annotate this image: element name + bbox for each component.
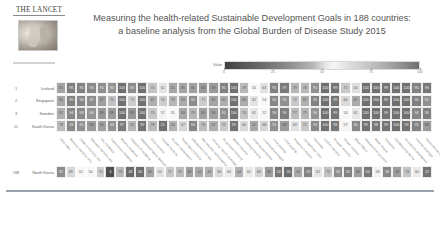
heatmap-cell[interactable]: 99 [381,95,391,107]
heatmap-cell[interactable]: 87 [97,95,107,107]
heatmap-cell[interactable]: 95 [269,82,279,94]
heatmap-cell[interactable]: 74 [147,82,157,94]
heatmap-cell[interactable]: 41 [293,166,303,178]
heatmap-cell[interactable]: 52 [76,166,86,178]
heatmap-cell[interactable]: 70 [96,166,106,178]
heatmap-cell[interactable]: 91 [310,82,320,94]
heatmap-cell[interactable]: 99 [137,120,147,132]
heatmap-cell[interactable]: 95 [219,82,229,94]
heatmap-cell[interactable]: 78 [300,82,310,94]
heatmap-cell[interactable]: 94 [411,107,421,119]
heatmap-cell[interactable]: 90 [86,107,96,119]
heatmap-cell[interactable]: 95 [411,120,421,132]
heatmap-cell[interactable]: 100 [229,82,239,94]
heatmap-cell[interactable]: 99 [330,107,340,119]
heatmap-cell[interactable]: 85 [178,82,188,94]
heatmap-cell[interactable]: 83 [178,95,188,107]
heatmap-cell[interactable]: 100 [320,120,330,132]
heatmap-cell[interactable]: 96 [411,95,421,107]
heatmap-cell[interactable]: 62 [249,95,259,107]
heatmap-cell[interactable]: 74 [239,107,249,119]
heatmap-cell[interactable]: 99 [229,120,239,132]
heatmap-cell[interactable]: 41 [249,120,259,132]
heatmap-cell[interactable]: 98 [330,120,340,132]
heatmap-cell[interactable]: 61 [351,107,361,119]
heatmap-cell[interactable]: 94 [269,95,279,107]
heatmap-cell[interactable]: 88 [208,82,218,94]
heatmap-cell[interactable]: 49 [66,166,76,178]
heatmap-cell[interactable]: 100 [117,107,127,119]
heatmap-cell[interactable]: 85 [208,95,218,107]
heatmap-cell[interactable]: 96 [422,107,432,119]
heatmap-cell[interactable]: 20 [283,166,293,178]
heatmap-cell[interactable]: 92 [127,82,137,94]
heatmap-cell[interactable]: 74 [402,166,412,178]
heatmap-cell[interactable]: 99 [381,107,391,119]
heatmap-cell[interactable]: 100 [320,95,330,107]
heatmap-cell[interactable]: 68 [259,120,269,132]
heatmap-cell[interactable]: 91 [279,95,289,107]
heatmap-cell[interactable]: 34 [107,120,117,132]
heatmap-cell[interactable]: 94 [188,120,198,132]
heatmap-cell[interactable]: 63 [259,82,269,94]
heatmap-cell[interactable]: 100 [401,107,411,119]
heatmap-cell[interactable]: 62 [158,82,168,94]
heatmap-cell[interactable]: 71 [127,95,137,107]
heatmap-cell[interactable]: 86 [185,166,195,178]
heatmap-cell[interactable]: 96 [279,107,289,119]
heatmap-cell[interactable]: 89 [127,107,137,119]
heatmap-cell[interactable]: 63 [290,120,300,132]
heatmap-cell[interactable]: 99 [330,95,340,107]
heatmap-cell[interactable]: 84 [178,107,188,119]
heatmap-cell[interactable]: 75 [107,95,117,107]
heatmap-cell[interactable]: 100 [320,82,330,94]
heatmap-cell[interactable]: 60 [224,166,234,178]
heatmap-cell[interactable]: 55 [168,107,178,119]
heatmap-cell[interactable]: 60 [412,166,422,178]
heatmap-cell[interactable]: 40 [145,166,155,178]
heatmap-cell[interactable]: 71 [198,95,208,107]
heatmap-cell[interactable]: 89 [97,107,107,119]
heatmap-cell[interactable]: 99 [381,82,391,94]
heatmap-cell[interactable]: 72 [290,95,300,107]
heatmap-cell[interactable]: 78 [239,82,249,94]
heatmap-cell[interactable]: 90 [310,107,320,119]
heatmap-cell[interactable]: 91 [422,95,432,107]
heatmap-cell[interactable]: 72 [300,120,310,132]
heatmap-cell[interactable]: 56 [86,166,96,178]
heatmap-cell[interactable]: 76 [198,120,208,132]
heatmap-cell[interactable]: 97 [279,82,289,94]
heatmap-cell[interactable]: 41 [168,82,178,94]
heatmap-cell[interactable]: 72 [340,82,350,94]
heatmap-cell[interactable]: 83 [239,95,249,107]
heatmap-cell[interactable]: 38 [392,166,402,178]
heatmap-cell[interactable]: 100 [371,107,381,119]
heatmap-cell[interactable]: 97 [117,120,127,132]
heatmap-cell[interactable]: 88 [279,120,289,132]
heatmap-cell[interactable]: 79 [290,82,300,94]
heatmap-cell[interactable]: 100 [117,95,127,107]
heatmap-cell[interactable]: 67 [178,120,188,132]
heatmap-cell[interactable]: 82 [56,107,66,119]
heatmap-cell[interactable]: 91 [269,120,279,132]
heatmap-cell[interactable]: 30 [382,166,392,178]
heatmap-cell[interactable]: 44 [204,166,214,178]
heatmap-cell[interactable]: 77 [290,107,300,119]
heatmap-cell[interactable]: 66 [214,166,224,178]
heatmap-cell[interactable]: 94 [66,107,76,119]
heatmap-cell[interactable]: 99 [401,120,411,132]
heatmap-cell[interactable]: 78 [56,120,66,132]
heatmap-cell[interactable]: 88 [107,107,117,119]
heatmap-cell[interactable]: 75 [323,166,333,178]
heatmap-cell[interactable]: 92 [86,95,96,107]
heatmap-cell[interactable]: 45 [127,120,137,132]
heatmap-cell[interactable]: 81 [147,95,157,107]
heatmap-cell[interactable]: 86 [97,120,107,132]
heatmap-cell[interactable]: 29 [303,166,313,178]
heatmap-cell[interactable]: 82 [208,120,218,132]
heatmap-cell[interactable]: 78 [115,166,125,178]
heatmap-cell[interactable]: 64 [351,82,361,94]
heatmap-cell[interactable]: 95 [76,82,86,94]
heatmap-cell[interactable]: 79 [188,107,198,119]
heatmap-cell[interactable]: 91 [219,107,229,119]
